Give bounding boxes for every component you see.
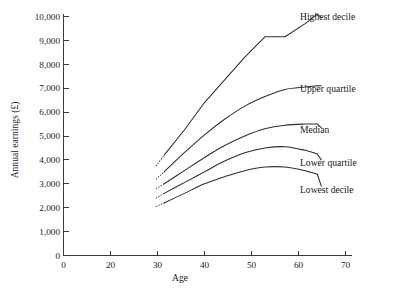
- series-curve-4: [164, 167, 317, 203]
- y-tick-label: 8,000: [39, 60, 60, 70]
- y-axis-title: Annual earnings (£): [9, 102, 21, 179]
- x-tick-label: 50: [247, 260, 257, 270]
- y-tick-label: 0: [55, 251, 60, 261]
- series-label-highest-decile: Highest decile: [300, 12, 355, 22]
- y-tick-label: 6,000: [39, 107, 60, 117]
- x-axis-ticks: [64, 251, 346, 256]
- x-tick-label: 0: [61, 260, 66, 270]
- y-tick-label: 3,000: [39, 179, 60, 189]
- series-curve-1: [164, 86, 317, 172]
- y-tick-label: 1,000: [39, 227, 60, 237]
- series-curve-3: [164, 147, 317, 194]
- x-axis-tick-labels: 0 20 30 40 50 60 70: [61, 260, 350, 270]
- figure-container: 0 1,000 2,000 3,000 4,000 5,000 6,000 7,…: [0, 0, 400, 302]
- x-tick-label: 20: [106, 260, 116, 270]
- y-tick-label: 9,000: [39, 36, 60, 46]
- x-tick-label: 60: [294, 260, 304, 270]
- series-dotted-start-3: [156, 193, 164, 198]
- y-tick-label: 7,000: [39, 83, 60, 93]
- series-dotted-start-4: [156, 203, 164, 207]
- y-axis-ticks: [64, 17, 69, 256]
- y-tick-label: 2,000: [39, 203, 60, 213]
- series-dotted-start-1: [156, 172, 164, 179]
- x-tick-label: 40: [200, 260, 210, 270]
- series-dotted-start-2: [156, 184, 164, 189]
- series-label-median: Median: [300, 125, 329, 135]
- series-label-lowest-decile: Lowest decile: [300, 185, 354, 195]
- x-tick-label: 30: [153, 260, 163, 270]
- series-label-lower-quartile: Lower quartile: [300, 158, 357, 168]
- y-tick-label: 10,000: [35, 12, 61, 22]
- series-dotted-start-0: [156, 155, 164, 166]
- y-tick-label: 4,000: [39, 155, 60, 165]
- series-curves-layer: [156, 14, 317, 206]
- series-curve-0: [164, 14, 317, 155]
- x-tick-label: 70: [341, 260, 351, 270]
- x-axis-title: Age: [172, 272, 188, 283]
- y-tick-label: 5,000: [39, 131, 60, 141]
- earnings-by-age-line-chart: 0 1,000 2,000 3,000 4,000 5,000 6,000 7,…: [0, 0, 400, 302]
- y-axis-tick-labels: 0 1,000 2,000 3,000 4,000 5,000 6,000 7,…: [35, 12, 61, 261]
- series-label-upper-quartile: Upper quartile: [300, 84, 356, 94]
